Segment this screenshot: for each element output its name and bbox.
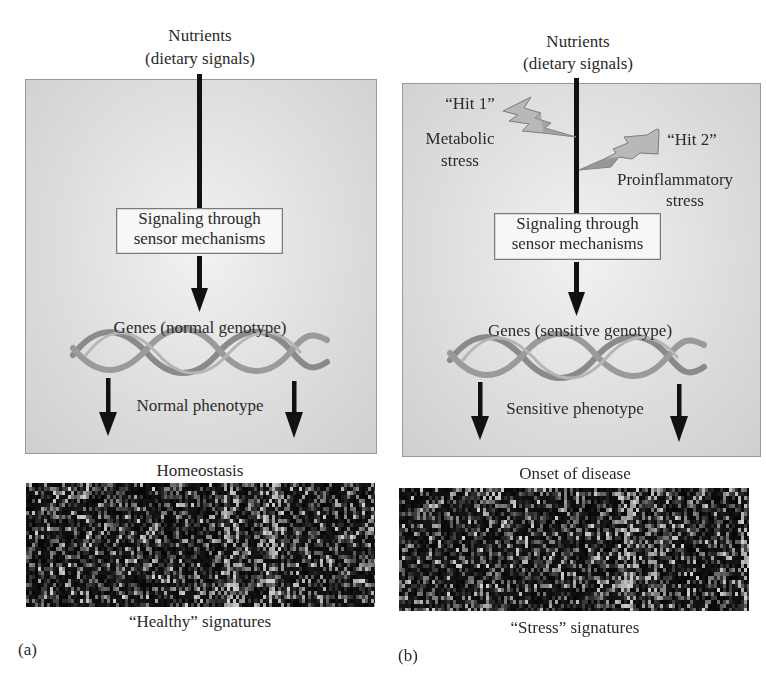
panel-b-sensor-box: Signaling through sensor mechanisms [494,213,661,260]
panel-b-hit1-stress-line2: stress [415,151,505,171]
panel-b-genes-label: Genes (sensitive genotype) [460,321,700,341]
panel-b-sensor-line2: sensor mechanisms [495,234,660,254]
panel-b-hit2-lightning-icon [579,129,659,170]
panel-b-hit2-stress-line1: Proinflammatory [600,170,750,190]
panel-b-input-line [574,78,579,213]
panel-b-hit1-label: “Hit 1” [430,94,510,114]
panel-b-heatmap-canvas [399,488,749,611]
panel-b-outcome-label: Onset of disease [495,464,655,484]
panel-b-phenotype-label: Sensitive phenotype [485,399,665,419]
panel-b-hit1-lightning-icon [503,97,576,137]
panel-b-phenotype-right-arrow-icon [670,384,688,442]
panel-b-sensor-line1: Signaling through [495,214,660,234]
panel-b-hit2-stress-line2: stress [630,191,740,211]
panel-b-label: (b) [398,646,428,666]
panel-b-hit1-stress-line1: Metabolic [415,129,505,149]
panel-b-heatmap [399,488,749,611]
panel-b-signature-label: “Stress” signatures [480,618,670,638]
panel-b-hit2-label: “Hit 2” [652,130,732,150]
panel-b-sensor-arrow-icon [568,262,585,316]
